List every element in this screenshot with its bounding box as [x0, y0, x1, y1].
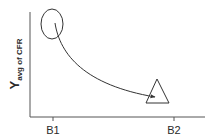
x-tick-label-b1: B1 [46, 124, 59, 136]
svg-text:Yavg of CFR: Yavg of CFR [7, 38, 24, 89]
diagram-canvas: B1 B2 Yavg of CFR [0, 0, 215, 140]
y-axis-label: Yavg of CFR [7, 38, 24, 89]
end-triangle-marker [146, 79, 169, 103]
decay-curve-arrow [55, 23, 155, 97]
start-ellipse-marker [41, 9, 63, 39]
x-tick-label-b2: B2 [167, 124, 180, 136]
y-axis-label-subscript: avg of CFR [15, 38, 24, 80]
y-axis-label-main: Y [7, 80, 22, 89]
